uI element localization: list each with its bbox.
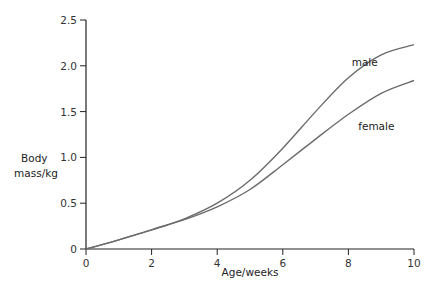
male-label: male: [352, 56, 378, 68]
x-axis-title: Age/weeks: [222, 266, 279, 278]
y-tick-label: 0: [70, 243, 77, 255]
y-tick-label: 2.0: [60, 60, 77, 72]
male-curve: [86, 45, 414, 249]
y-axis-title: Body mass/kg: [14, 152, 58, 179]
growth-chart: 00.51.01.52.02.5 0246810 malefemale Age/…: [0, 0, 433, 294]
series-labels: malefemale: [352, 56, 395, 132]
x-tick-label: 0: [83, 257, 90, 269]
y-tick-label: 2.5: [60, 14, 77, 26]
y-axis-title-line-2: mass/kg: [14, 167, 58, 179]
series-lines: [86, 45, 414, 249]
y-axis: 00.51.01.52.02.5: [60, 14, 86, 255]
y-tick-label: 0.5: [60, 197, 77, 209]
female-curve: [86, 81, 414, 250]
x-tick-label: 10: [407, 257, 420, 269]
x-tick-label: 8: [345, 257, 352, 269]
female-label: female: [358, 120, 394, 132]
x-tick-label: 4: [214, 257, 221, 269]
y-tick-label: 1.5: [60, 106, 77, 118]
y-tick-label: 1.0: [60, 151, 77, 163]
x-tick-label: 2: [148, 257, 155, 269]
y-axis-title-line-1: Body: [21, 152, 48, 164]
x-tick-label: 6: [279, 257, 286, 269]
